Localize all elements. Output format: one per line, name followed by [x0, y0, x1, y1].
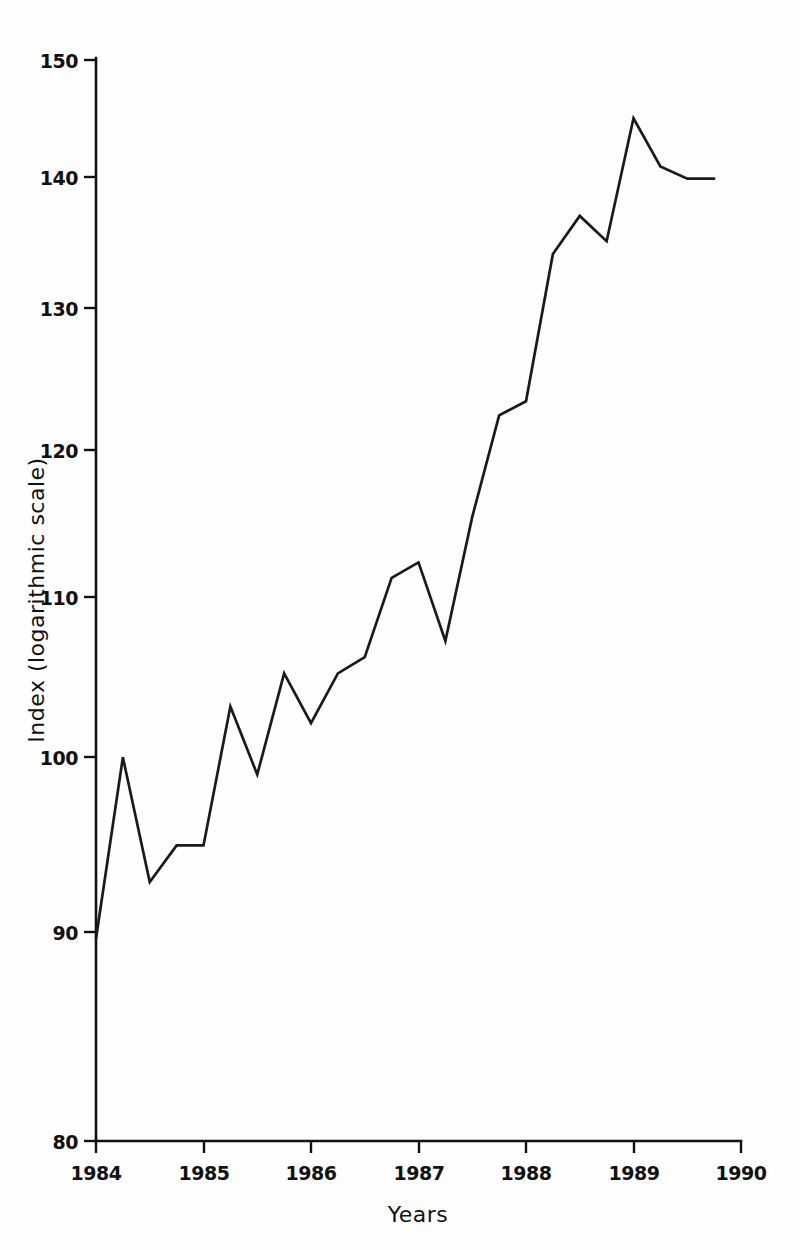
y-tick-label-0: 150: [40, 50, 78, 72]
y-tick-marks: [84, 60, 96, 1141]
y-tick-label-7: 80: [53, 1131, 79, 1153]
line-chart-plot: 150 140 130 120 110 100 90 80 1984 1985 …: [0, 0, 800, 1250]
x-tick-labels: 1984 1985 1986 1987 1988 1989 1990: [71, 1162, 767, 1184]
data-series-line: [96, 118, 714, 938]
y-tick-label-1: 140: [40, 167, 78, 189]
x-tick-label-6: 1990: [716, 1162, 767, 1184]
x-tick-label-2: 1986: [286, 1162, 337, 1184]
chart-figure: 150 140 130 120 110 100 90 80 1984 1985 …: [0, 0, 800, 1250]
y-axis-title: Index (logarithmic scale): [24, 457, 49, 742]
y-tick-label-6: 90: [53, 922, 79, 944]
axes-group: [96, 58, 741, 1141]
x-tick-label-1: 1985: [179, 1162, 230, 1184]
y-tick-label-5: 100: [40, 747, 78, 769]
y-tick-label-2: 130: [40, 298, 78, 320]
x-tick-label-0: 1984: [71, 1162, 122, 1184]
x-axis-title: Years: [387, 1202, 449, 1227]
x-tick-label-4: 1988: [501, 1162, 552, 1184]
x-tick-label-3: 1987: [394, 1162, 445, 1184]
x-tick-label-5: 1989: [609, 1162, 660, 1184]
x-tick-marks: [96, 1141, 741, 1153]
